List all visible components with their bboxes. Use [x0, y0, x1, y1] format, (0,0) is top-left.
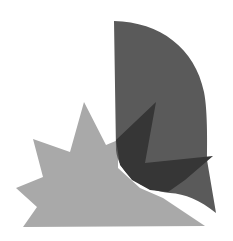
abstract-artwork	[0, 0, 233, 241]
artwork-svg	[0, 0, 233, 241]
